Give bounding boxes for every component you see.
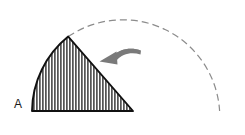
sector-hatch-fill xyxy=(32,37,133,111)
sector-label-a: A xyxy=(14,97,22,111)
figure-canvas: A xyxy=(0,0,245,135)
diagram-svg: A xyxy=(0,0,245,135)
rotation-arrow xyxy=(100,49,142,65)
